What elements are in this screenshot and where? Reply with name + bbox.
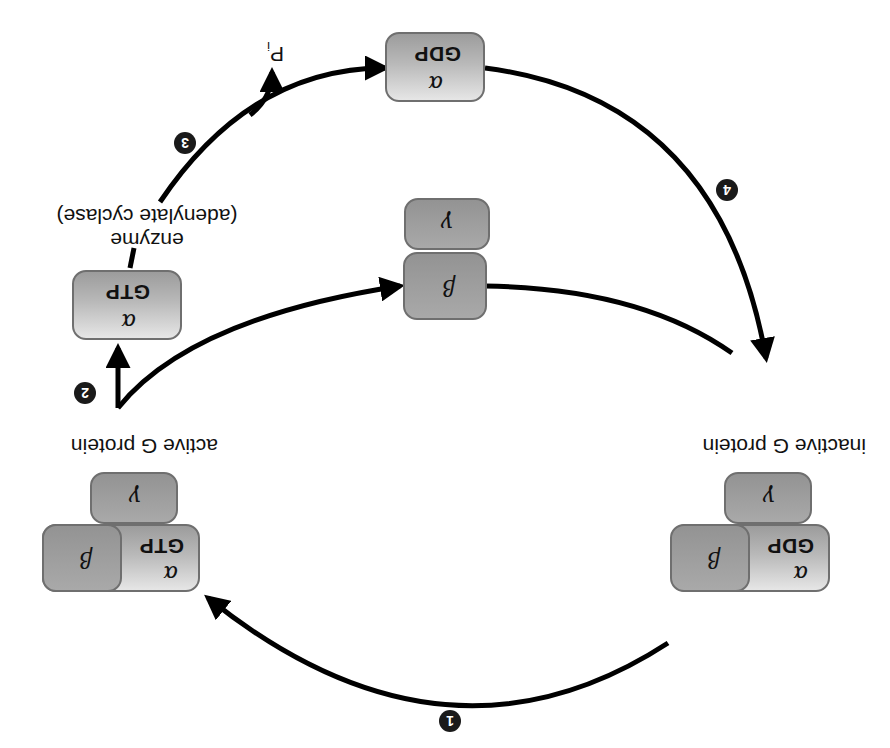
- free-beta-subunit: β: [403, 252, 487, 320]
- arrow-step-1: [208, 598, 668, 706]
- inactive-beta-subunit: β: [670, 524, 750, 592]
- beta-symbol: β: [442, 275, 455, 300]
- gdp-label: GDP: [414, 42, 461, 66]
- active-beta-subunit: β: [42, 524, 122, 592]
- active-gamma-subunit: γ: [90, 472, 178, 524]
- step-4-badge: 4: [716, 179, 738, 201]
- alpha-symbol: α: [163, 561, 178, 586]
- gamma-symbol: γ: [129, 485, 142, 510]
- gtp-label: GTP: [105, 280, 150, 304]
- inactive-g-protein-label: inactive G protein: [703, 434, 866, 458]
- gdp-label: GDP: [767, 534, 814, 558]
- enzyme-label-line1: enzyme: [34, 228, 260, 252]
- phosphate-p: P: [270, 43, 284, 66]
- enzyme-label-line2: (adenylate cyclase): [34, 204, 260, 228]
- inactive-gamma-subunit: γ: [724, 472, 812, 524]
- beta-symbol: β: [707, 547, 720, 572]
- gamma-symbol: γ: [441, 211, 454, 236]
- arrow-step-4: [485, 68, 766, 358]
- free-gamma-subunit: γ: [404, 198, 490, 250]
- phosphate-label: Pi: [267, 39, 284, 66]
- beta-symbol: β: [79, 547, 92, 572]
- gtp-label: GTP: [139, 534, 184, 558]
- cycle-arrows: [0, 0, 890, 748]
- line-betagamma-return: [485, 286, 732, 353]
- phosphate-subscript: i: [267, 39, 270, 54]
- arrow-step-3: [160, 68, 385, 202]
- step-3-badge: 3: [174, 132, 196, 154]
- alpha-symbol: α: [793, 561, 808, 586]
- step-1-badge: 1: [439, 710, 461, 732]
- g-protein-cycle-diagram: α GDP β γ inactive G protein α GTP β γ a…: [0, 0, 890, 748]
- gamma-symbol: γ: [763, 485, 776, 510]
- active-g-protein-label: active G protein: [71, 434, 218, 458]
- alpha-gtp-subunit: α GTP: [72, 270, 182, 340]
- step-2-badge: 2: [74, 382, 96, 404]
- alpha-symbol: α: [121, 309, 136, 334]
- enzyme-label: enzyme (adenylate cyclase): [34, 204, 260, 252]
- alpha-gdp-subunit: α GDP: [385, 32, 485, 102]
- alpha-symbol: α: [428, 71, 443, 96]
